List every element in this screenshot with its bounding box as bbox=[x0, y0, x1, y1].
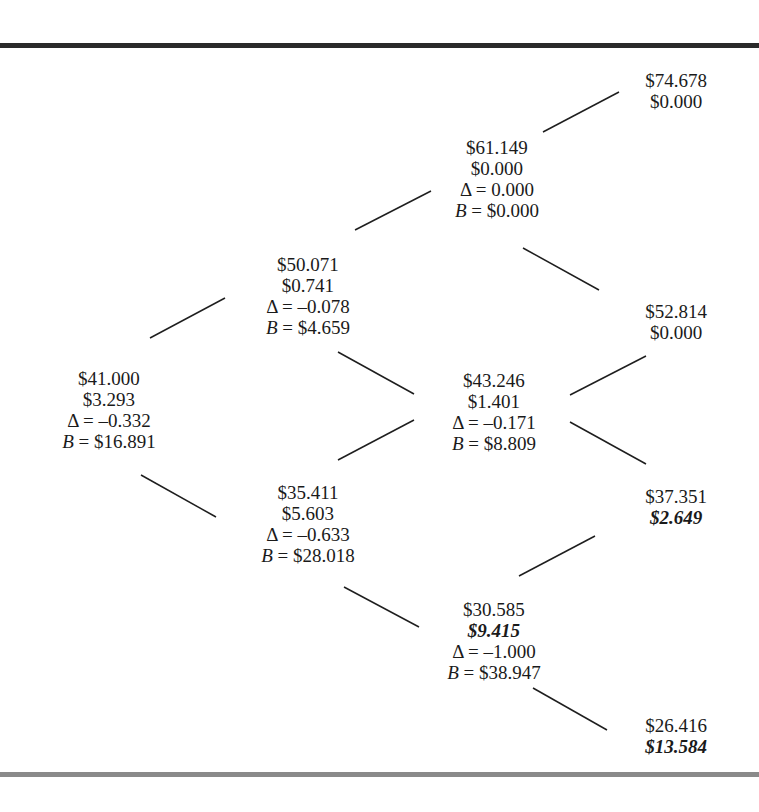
bond-label: B bbox=[452, 433, 464, 454]
tree-edge bbox=[523, 248, 599, 290]
option-value: $0.741 bbox=[266, 275, 350, 296]
tree-edge bbox=[355, 191, 431, 230]
tree-edge bbox=[570, 422, 646, 464]
option-value: $0.000 bbox=[645, 91, 707, 112]
tree-node: $50.071$0.741Δ = –0.078B = $4.659 bbox=[266, 254, 350, 338]
tree-edge bbox=[141, 475, 216, 517]
option-value: $3.293 bbox=[62, 389, 156, 410]
option-value: $2.649 bbox=[645, 507, 707, 528]
option-value: $13.584 bbox=[645, 736, 707, 757]
tree-node: $52.814$0.000 bbox=[645, 301, 707, 343]
bond-amount: = $0.000 bbox=[467, 200, 539, 221]
bond-value: B = $38.947 bbox=[447, 662, 541, 683]
bond-label: B bbox=[62, 431, 74, 452]
bond-amount: = $4.659 bbox=[278, 317, 350, 338]
option-value: $5.603 bbox=[261, 503, 355, 524]
tree-node: $37.351$2.649 bbox=[645, 486, 707, 528]
tree-edge bbox=[543, 92, 619, 132]
delta-value: Δ = –0.633 bbox=[261, 524, 355, 545]
bond-value: B = $4.659 bbox=[266, 317, 350, 338]
bond-amount: = $16.891 bbox=[74, 431, 156, 452]
tree-edge bbox=[150, 298, 225, 338]
bond-amount: = $28.018 bbox=[273, 545, 355, 566]
delta-value: Δ = 0.000 bbox=[455, 179, 539, 200]
tree-node: $35.411$5.603Δ = –0.633B = $28.018 bbox=[261, 482, 355, 566]
bond-value: B = $0.000 bbox=[455, 200, 539, 221]
bond-value: B = $28.018 bbox=[261, 545, 355, 566]
stock-price: $50.071 bbox=[266, 254, 350, 275]
delta-value: Δ = –0.078 bbox=[266, 296, 350, 317]
bond-label: B bbox=[455, 200, 467, 221]
bond-value: B = $16.891 bbox=[62, 431, 156, 452]
bond-value: B = $8.809 bbox=[452, 433, 536, 454]
bond-amount: = $38.947 bbox=[459, 662, 541, 683]
option-value: $0.000 bbox=[455, 158, 539, 179]
tree-edge bbox=[533, 688, 607, 730]
tree-node: $26.416$13.584 bbox=[645, 715, 707, 757]
stock-price: $35.411 bbox=[261, 482, 355, 503]
tree-node: $74.678$0.000 bbox=[645, 70, 707, 112]
option-value: $1.401 bbox=[452, 391, 536, 412]
bond-label: B bbox=[261, 545, 273, 566]
stock-price: $61.149 bbox=[455, 137, 539, 158]
option-value: $9.415 bbox=[447, 620, 541, 641]
option-value: $0.000 bbox=[645, 322, 707, 343]
tree-edge bbox=[344, 587, 419, 627]
stock-price: $52.814 bbox=[645, 301, 707, 322]
bond-label: B bbox=[447, 662, 459, 683]
bond-label: B bbox=[266, 317, 278, 338]
stock-price: $43.246 bbox=[452, 370, 536, 391]
delta-value: Δ = –0.171 bbox=[452, 412, 536, 433]
stock-price: $41.000 bbox=[62, 368, 156, 389]
tree-edge bbox=[519, 536, 595, 576]
stock-price: $37.351 bbox=[645, 486, 707, 507]
tree-edge bbox=[338, 420, 414, 460]
tree-edge bbox=[570, 356, 646, 395]
delta-value: Δ = –0.332 bbox=[62, 410, 156, 431]
bond-amount: = $8.809 bbox=[464, 433, 536, 454]
stock-price: $74.678 bbox=[645, 70, 707, 91]
tree-node: $61.149$0.000Δ = 0.000B = $0.000 bbox=[455, 137, 539, 221]
tree-node: $30.585$9.415Δ = –1.000B = $38.947 bbox=[447, 599, 541, 683]
delta-value: Δ = –1.000 bbox=[447, 641, 541, 662]
tree-node: $43.246$1.401Δ = –0.171B = $8.809 bbox=[452, 370, 536, 454]
stock-price: $26.416 bbox=[645, 715, 707, 736]
stock-price: $30.585 bbox=[447, 599, 541, 620]
tree-edge bbox=[338, 352, 414, 394]
tree-node: $41.000$3.293Δ = –0.332B = $16.891 bbox=[62, 368, 156, 452]
